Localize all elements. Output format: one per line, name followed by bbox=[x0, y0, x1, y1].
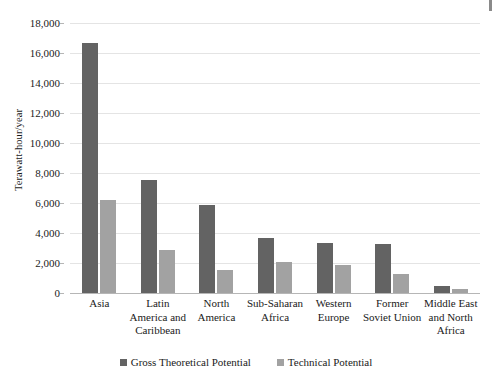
y-axis-tick-label: 12,000 bbox=[30, 108, 60, 119]
bar[interactable] bbox=[141, 180, 157, 293]
x-axis-category-label-line: Africa bbox=[415, 324, 486, 338]
y-axis-tick-mark bbox=[60, 293, 64, 294]
legend-label: Gross Theoretical Potential bbox=[131, 356, 251, 368]
plot-area bbox=[70, 23, 480, 293]
legend-label: Technical Potential bbox=[288, 356, 372, 368]
y-axis-tick-mark bbox=[60, 53, 64, 54]
bar[interactable] bbox=[452, 289, 468, 293]
bar[interactable] bbox=[276, 262, 292, 294]
x-axis-category-label-line: Caribbean bbox=[123, 324, 194, 338]
bar-group bbox=[129, 23, 188, 293]
bar-group bbox=[246, 23, 305, 293]
y-axis-tick-mark bbox=[60, 83, 64, 84]
x-axis-category-labels: AsiaLatinAmerica andCaribbeanNorthAmeric… bbox=[70, 297, 480, 352]
bar[interactable] bbox=[335, 265, 351, 294]
y-axis-tick-labels: 18,00016,00014,00012,00010,0008,0006,000… bbox=[0, 23, 64, 293]
y-axis-tick-label: 8,000 bbox=[35, 168, 60, 179]
y-axis-tick-mark bbox=[60, 23, 64, 24]
y-axis-tick-mark bbox=[60, 143, 64, 144]
bar-group bbox=[363, 23, 422, 293]
bar[interactable] bbox=[159, 250, 175, 293]
y-axis-tick-label: 4,000 bbox=[35, 228, 60, 239]
y-axis-tick-mark bbox=[60, 203, 64, 204]
bar-group bbox=[421, 23, 480, 293]
bar[interactable] bbox=[100, 200, 116, 293]
bar[interactable] bbox=[375, 244, 391, 294]
legend-swatch-icon bbox=[277, 359, 284, 366]
bar[interactable] bbox=[199, 205, 215, 293]
y-axis-tick-label: 6,000 bbox=[35, 198, 60, 209]
bar[interactable] bbox=[434, 286, 450, 293]
legend-entry[interactable]: Technical Potential bbox=[277, 356, 372, 368]
y-axis-tick-mark bbox=[60, 263, 64, 264]
bar-group bbox=[187, 23, 246, 293]
bar[interactable] bbox=[258, 238, 274, 293]
bar[interactable] bbox=[217, 270, 233, 293]
y-axis-tick-mark bbox=[60, 113, 64, 114]
bar-chart: Terawatt-hour/year 18,00016,00014,00012,… bbox=[0, 0, 492, 380]
y-axis-tick-label: 16,000 bbox=[30, 48, 60, 59]
y-axis-tick-label: 10,000 bbox=[30, 138, 60, 149]
legend-swatch-icon bbox=[120, 359, 127, 366]
bar[interactable] bbox=[82, 43, 98, 293]
x-axis-category-label-line: Middle East bbox=[415, 297, 486, 311]
y-axis-tick-label: 14,000 bbox=[30, 78, 60, 89]
bar-group bbox=[70, 23, 129, 293]
y-axis-tick-mark bbox=[60, 233, 64, 234]
y-axis-tick-label: 2,000 bbox=[35, 258, 60, 269]
y-axis-tick-label: 18,000 bbox=[30, 18, 60, 29]
bar[interactable] bbox=[317, 243, 333, 293]
y-axis-tick-mark bbox=[60, 173, 64, 174]
bar[interactable] bbox=[393, 274, 409, 294]
x-axis-category-label: Middle Eastand NorthAfrica bbox=[415, 297, 486, 338]
gridline bbox=[70, 293, 480, 294]
bar-group bbox=[304, 23, 363, 293]
legend-entry[interactable]: Gross Theoretical Potential bbox=[120, 356, 251, 368]
chart-legend: Gross Theoretical PotentialTechnical Pot… bbox=[0, 352, 492, 372]
x-axis-category-label-line: and North bbox=[415, 311, 486, 325]
